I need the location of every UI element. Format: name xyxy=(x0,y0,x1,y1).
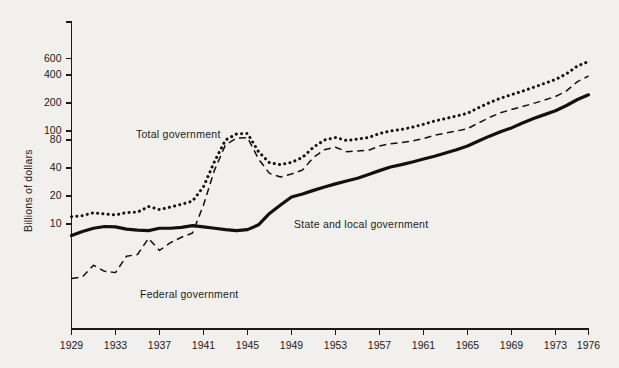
x-tick-label: 1933 xyxy=(93,339,139,351)
x-tick-label: 1976 xyxy=(566,339,612,351)
x-tick-label: 1941 xyxy=(181,339,227,351)
x-tick-label: 1953 xyxy=(313,339,359,351)
x-tick-label: 1949 xyxy=(269,339,315,351)
series-line-solid xyxy=(72,95,589,236)
x-tick-label: 1945 xyxy=(225,339,271,351)
x-tick-label: 1929 xyxy=(49,339,95,351)
axis-spines xyxy=(72,22,589,329)
chart-plot-svg xyxy=(0,0,619,368)
x-tick-label: 1965 xyxy=(445,339,491,351)
series-annotation-total: Total government xyxy=(136,128,221,140)
x-tick-label: 1969 xyxy=(489,339,535,351)
y-axis-title: Billions of dollars xyxy=(22,149,34,232)
x-tick-label: 1957 xyxy=(357,339,403,351)
x-tick-label: 1937 xyxy=(137,339,183,351)
series-line-dashed xyxy=(72,76,589,278)
x-axis-ticks xyxy=(72,329,589,335)
y-tick-label: 600 xyxy=(22,52,62,64)
y-tick-label: 400 xyxy=(22,68,62,80)
series-annotation-state_local: State and local government xyxy=(294,218,428,230)
series-annotation-federal: Federal government xyxy=(140,288,238,300)
chart-container: 1020408010020040060019291933193719411945… xyxy=(0,0,619,368)
y-axis-ticks xyxy=(66,22,72,224)
y-tick-label: 100 xyxy=(22,124,62,136)
y-tick-label: 200 xyxy=(22,96,62,108)
x-tick-label: 1961 xyxy=(401,339,447,351)
